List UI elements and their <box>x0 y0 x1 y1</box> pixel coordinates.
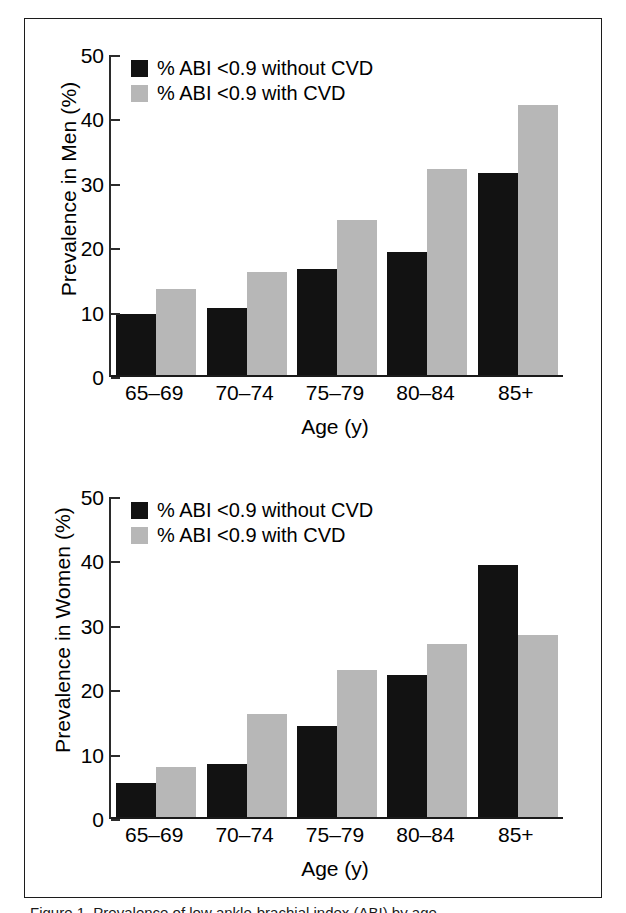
x-axis-tick-label: 80–84 <box>380 381 470 405</box>
y-axis-tick-label-women-20: 20 <box>81 679 104 703</box>
y-axis-tick-men-40: 40 <box>111 119 120 121</box>
y-axis-tick-women-20: 20 <box>111 690 120 692</box>
bar-men-with-cvd <box>427 169 467 375</box>
y-axis-tick-label-men-30: 30 <box>81 173 104 197</box>
bar-women-without-cvd <box>297 726 337 817</box>
y-axis-tick-men-30: 30 <box>111 184 120 186</box>
y-axis-tick-label-women-40: 40 <box>81 550 104 574</box>
y-axis-tick-women-40: 40 <box>111 561 120 563</box>
legend-women: % ABI <0.9 without CVD % ABI <0.9 with C… <box>131 499 373 549</box>
y-axis-title-women: Prevalence in Women (%) <box>51 480 75 780</box>
bar-men-without-cvd <box>387 252 427 375</box>
legend-label-with-cvd: % ABI <0.9 with CVD <box>157 82 345 105</box>
figure-container: Prevalence in Men (%) 01020304050 % ABI … <box>0 0 626 913</box>
x-axis-tick-label: 70–74 <box>199 823 289 847</box>
bar-women-without-cvd <box>207 764 247 817</box>
bar-women-with-cvd <box>427 644 467 817</box>
y-axis-tick-men-10: 10 <box>111 313 120 315</box>
x-axis-tick-label: 85+ <box>471 381 561 405</box>
legend-men: % ABI <0.9 without CVD % ABI <0.9 with C… <box>131 57 373 107</box>
y-axis-tick-label-men-40: 40 <box>81 108 104 132</box>
chart-panel-men: Prevalence in Men (%) 01020304050 % ABI … <box>25 19 603 451</box>
y-axis-tick-label-women-10: 10 <box>81 744 104 768</box>
x-axis-tick-label: 65–69 <box>109 381 199 405</box>
bar-men-without-cvd <box>207 308 247 375</box>
y-axis-tick-women-0: 0 <box>111 819 120 821</box>
y-axis-tick-label-men-20: 20 <box>81 237 104 261</box>
legend-item-without-cvd: % ABI <0.9 without CVD <box>131 57 373 80</box>
bar-men-with-cvd <box>247 272 287 375</box>
bar-men-with-cvd <box>156 289 196 375</box>
y-axis-tick-men-0: 0 <box>111 377 120 379</box>
x-axis-tick-labels-women: 65–6970–7475–7980–8485+ <box>109 823 561 847</box>
x-axis-tick-label: 75–79 <box>290 823 380 847</box>
legend-swatch-with-cvd <box>131 527 148 544</box>
figure-caption: Figure 1. Prevalence of low ankle-brachi… <box>30 903 596 913</box>
legend-item-with-cvd: % ABI <0.9 with CVD <box>131 82 373 105</box>
x-axis-tick-label: 80–84 <box>380 823 470 847</box>
bar-women-with-cvd <box>156 767 196 817</box>
bar-women-with-cvd <box>337 670 377 817</box>
bar-group <box>473 497 563 817</box>
legend-label-without-cvd: % ABI <0.9 without CVD <box>157 57 373 80</box>
x-axis-tick-label: 70–74 <box>199 381 289 405</box>
legend-label-with-cvd: % ABI <0.9 with CVD <box>157 524 345 547</box>
legend-swatch-with-cvd <box>131 85 148 102</box>
legend-item-with-cvd: % ABI <0.9 with CVD <box>131 524 373 547</box>
legend-label-without-cvd: % ABI <0.9 without CVD <box>157 499 373 522</box>
bar-men-without-cvd <box>116 314 156 375</box>
y-axis-tick-women-50: 50 <box>111 497 120 499</box>
bar-women-without-cvd <box>387 675 427 817</box>
bar-men-with-cvd <box>518 105 558 375</box>
bar-group <box>473 55 563 375</box>
y-axis-tick-men-50: 50 <box>111 55 120 57</box>
y-axis-tick-label-women-50: 50 <box>81 486 104 510</box>
bar-men-with-cvd <box>337 220 377 375</box>
legend-item-without-cvd: % ABI <0.9 without CVD <box>131 499 373 522</box>
bar-women-without-cvd <box>478 565 518 817</box>
y-axis-tick-label-women-30: 30 <box>81 615 104 639</box>
x-axis-title-women: Age (y) <box>109 857 561 881</box>
x-axis-tick-labels-men: 65–6970–7475–7980–8485+ <box>109 381 561 405</box>
bar-men-without-cvd <box>297 269 337 375</box>
legend-swatch-without-cvd <box>131 502 148 519</box>
x-axis-tick-label: 75–79 <box>290 381 380 405</box>
bar-group <box>382 497 472 817</box>
y-axis-tick-label-men-50: 50 <box>81 44 104 68</box>
bar-women-without-cvd <box>116 783 156 817</box>
bar-group <box>382 55 472 375</box>
bar-men-without-cvd <box>478 173 518 375</box>
figure-frame: Prevalence in Men (%) 01020304050 % ABI … <box>24 18 602 898</box>
chart-panel-women: Prevalence in Women (%) 01020304050 % AB… <box>25 455 603 897</box>
y-axis-title-men: Prevalence in Men (%) <box>57 39 81 339</box>
bar-women-with-cvd <box>247 714 287 817</box>
y-axis-tick-men-20: 20 <box>111 248 120 250</box>
y-axis-tick-label-men-0: 0 <box>92 366 104 390</box>
x-axis-title-men: Age (y) <box>109 415 561 439</box>
y-axis-tick-women-10: 10 <box>111 755 120 757</box>
y-axis-tick-label-women-0: 0 <box>92 808 104 832</box>
x-axis-tick-label: 85+ <box>471 823 561 847</box>
x-axis-tick-label: 65–69 <box>109 823 199 847</box>
bar-women-with-cvd <box>518 635 558 817</box>
y-axis-tick-label-men-10: 10 <box>81 302 104 326</box>
y-axis-tick-women-30: 30 <box>111 626 120 628</box>
legend-swatch-without-cvd <box>131 60 148 77</box>
